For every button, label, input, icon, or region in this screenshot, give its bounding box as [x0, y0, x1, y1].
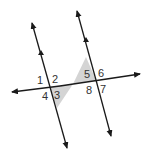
angle-label-2: 2 — [52, 73, 58, 85]
angle-label-3: 3 — [54, 89, 60, 101]
parallel-mark-left — [38, 50, 44, 55]
parallel-lines-diagram: 1 2 3 4 5 6 7 8 — [0, 0, 146, 158]
angle-label-7: 7 — [100, 83, 106, 95]
angle-label-4: 4 — [42, 90, 48, 102]
angle-label-1: 1 — [37, 74, 43, 86]
angle-label-5: 5 — [84, 68, 90, 80]
angle-label-6: 6 — [98, 67, 104, 79]
angle-label-8: 8 — [86, 84, 92, 96]
